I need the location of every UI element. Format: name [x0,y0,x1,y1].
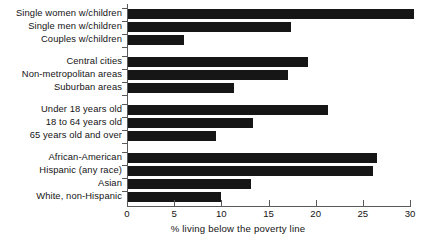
y-tick [122,104,127,105]
category-label-couples: Couples w/children [41,34,122,44]
poverty-bar-chart: Single women w/children Single men w/chi… [0,0,428,243]
x-tick [127,200,128,206]
x-tick [410,200,411,206]
y-tick [122,130,127,131]
y-tick [122,117,127,118]
x-tick [316,200,317,206]
x-tick [363,200,364,206]
category-label-non-metropolitan: Non-metropolitan areas [22,69,122,79]
category-label-hispanic: Hispanic (any race) [39,165,122,175]
y-tick [122,191,127,192]
x-tick-label: 15 [254,208,284,219]
x-tick-label: 10 [206,208,236,219]
y-tick [122,95,127,96]
bar [128,166,373,176]
x-tick [269,200,270,206]
x-tick-label: 25 [348,208,378,219]
category-label-under-18: Under 18 years old [41,104,122,114]
x-tick-label: 30 [395,208,425,219]
y-tick [122,34,127,35]
y-tick [122,165,127,166]
bar [128,105,328,115]
x-tick-label: 5 [159,208,189,219]
bar [128,22,291,32]
bar [128,131,216,141]
y-tick [122,152,127,153]
category-label-central-cities: Central cities [66,56,122,66]
bar [128,118,253,128]
plot-area [127,0,428,206]
y-tick [122,69,127,70]
bar [128,70,288,80]
y-tick [122,178,127,179]
y-tick [122,82,127,83]
y-tick [122,56,127,57]
y-tick [122,8,127,9]
x-tick-label: 0 [112,208,142,219]
x-axis-title: % living below the poverty line [0,223,428,234]
category-label-18-to-64: 18 to 64 years old [46,117,122,127]
category-label-suburban: Suburban areas [54,82,122,92]
category-label-65-and-over: 65 years old and over [30,130,122,140]
x-axis-line [127,206,411,207]
bar [128,35,184,45]
category-label-african-american: African-American [49,152,123,162]
bar [128,179,251,189]
y-tick [122,47,127,48]
bar [128,83,234,93]
y-tick [122,21,127,22]
x-tick [221,200,222,206]
category-label-white-non-hispanic: White, non-Hispanic [36,191,122,201]
x-tick-label: 20 [301,208,331,219]
bar [128,9,414,19]
bar [128,57,308,67]
y-tick [122,143,127,144]
category-label-single-women: Single women w/children [16,8,122,18]
x-tick [174,200,175,206]
bar [128,153,377,163]
category-label-asian: Asian [98,178,122,188]
category-label-single-men: Single men w/children [28,21,122,31]
